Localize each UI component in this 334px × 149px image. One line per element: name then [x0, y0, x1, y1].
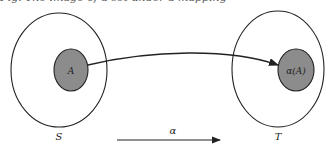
subset-a-label: A — [67, 66, 75, 76]
set-s-label: S — [56, 131, 63, 142]
mapping-label: α — [170, 125, 177, 136]
mapping-diagram: A S α(A) T α — [0, 0, 334, 149]
element-mapping-arrow — [88, 53, 278, 65]
set-t-label: T — [275, 131, 283, 142]
subset-alpha-a-label: α(A) — [286, 66, 306, 76]
